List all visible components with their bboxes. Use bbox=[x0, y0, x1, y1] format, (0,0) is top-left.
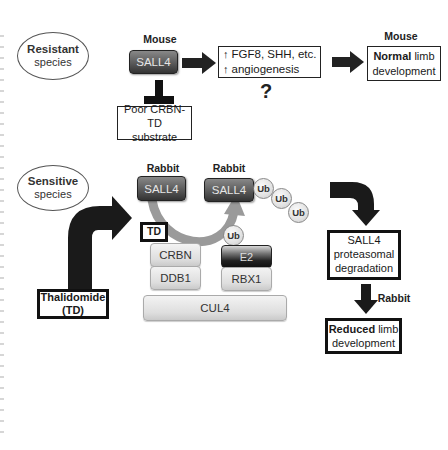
thalidomide-bent-arrow-icon bbox=[68, 196, 132, 290]
inhibition-bar-icon bbox=[144, 80, 174, 104]
cul4-protein: CUL4 bbox=[143, 295, 287, 321]
species-label: species bbox=[34, 56, 71, 69]
sensitive-label: Sensitive bbox=[28, 175, 79, 188]
crbn-protein: CRBN bbox=[150, 243, 201, 267]
e2-protein: E2 bbox=[221, 245, 272, 268]
sall4-mouse-box: SALL4 bbox=[129, 50, 178, 74]
sensitive-species-ellipse: Sensitive species bbox=[17, 165, 89, 211]
normal-line2: development bbox=[373, 64, 436, 78]
thalidomide-line1: Thalidomide bbox=[41, 291, 106, 304]
rabbit-ubiquitinated-label: Rabbit bbox=[203, 162, 255, 174]
up-arrow-icon: ↑ bbox=[223, 63, 229, 75]
reduced-bold: Reduced bbox=[329, 323, 375, 335]
poor-substrate-box: Poor CRBN-TD substrate bbox=[117, 106, 192, 140]
resistant-species-ellipse: Resistant species bbox=[17, 32, 89, 80]
effects-line1: ↑FGF8, SHH, etc. bbox=[223, 47, 317, 62]
degradation-line1: SALL4 bbox=[347, 234, 380, 248]
up-arrow-icon: ↑ bbox=[223, 48, 229, 60]
rabbit-outcome-label: Rabbit bbox=[374, 292, 414, 304]
arrow-effects-to-normal-icon bbox=[332, 51, 364, 73]
bent-arrow-to-degradation-icon bbox=[330, 182, 380, 226]
arrow-sall4-to-effects-icon bbox=[182, 52, 216, 74]
normal-bold: Normal bbox=[373, 50, 411, 62]
species-label: species bbox=[34, 188, 71, 201]
ub-circle-3: Ub bbox=[288, 202, 309, 223]
question-mark: ? bbox=[260, 80, 272, 103]
effects-box: ↑FGF8, SHH, etc. ↑angiogenesis bbox=[218, 46, 321, 78]
rbx1-protein: RBX1 bbox=[221, 267, 272, 291]
td-box: TD bbox=[140, 222, 168, 242]
thalidomide-box: Thalidomide (TD) bbox=[37, 289, 109, 319]
ddb1-protein: DDB1 bbox=[150, 266, 201, 290]
reduced-limb-box: Reduced limb development bbox=[325, 318, 402, 354]
sall4-ubiquitinated-box: SALL4 bbox=[204, 178, 254, 202]
mouse-outcome-label: Mouse bbox=[370, 30, 432, 42]
resistant-label: Resistant bbox=[27, 43, 79, 56]
normal-limb-box: Normal limb development bbox=[367, 46, 441, 81]
degradation-line2: proteasomal bbox=[334, 248, 395, 262]
mouse-label: Mouse bbox=[132, 33, 188, 45]
reduced-line2: development bbox=[332, 336, 395, 350]
rabbit-substrate-label: Rabbit bbox=[137, 162, 189, 174]
degradation-line3: degradation bbox=[335, 262, 393, 276]
degradation-box: SALL4 proteasomal degradation bbox=[327, 230, 401, 280]
effects-line2: ↑angiogenesis bbox=[223, 62, 299, 77]
poor-substrate-line1: Poor CRBN-TD bbox=[118, 102, 191, 131]
poor-substrate-line2: substrate bbox=[132, 130, 177, 144]
sall4-rabbit-box: SALL4 bbox=[137, 176, 186, 201]
ub-circle-e2: Ub bbox=[223, 225, 244, 246]
thalidomide-line2: (TD) bbox=[62, 304, 84, 317]
